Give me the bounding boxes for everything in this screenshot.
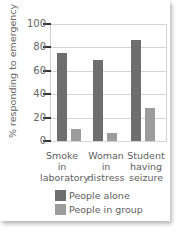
- plot-right-border: [166, 24, 167, 141]
- legend-swatch-alone: [55, 190, 66, 201]
- tick-label: 0: [22, 136, 46, 146]
- gridline-40: [51, 94, 167, 95]
- legend-swatch-group: [55, 204, 66, 215]
- x-label-line: Student: [124, 150, 168, 161]
- x-label-line: in: [40, 161, 84, 172]
- legend-label: People alone: [69, 190, 130, 201]
- x-label-line: laboratory: [40, 172, 84, 183]
- legend-item-group: People in group: [55, 203, 143, 215]
- gridline-0: [51, 141, 167, 142]
- tick-label: 20: [22, 113, 46, 123]
- tick-label: 80: [22, 42, 46, 52]
- bar-alone-2: [131, 40, 141, 141]
- x-label-line: Woman: [84, 150, 128, 161]
- bar-group-2: [145, 108, 155, 141]
- x-label-line: having: [124, 161, 168, 172]
- x-label-line: Smoke: [40, 150, 84, 161]
- gridline-80: [51, 47, 167, 48]
- x-label-student: Student having seizure: [124, 150, 168, 183]
- legend: People alone People in group: [55, 189, 143, 217]
- y-axis-label: % responding to emergency: [7, 18, 19, 138]
- plot-area: 100 80 60 40 20 0: [50, 24, 167, 141]
- legend-label: People in group: [69, 204, 143, 215]
- x-label-line: seizure: [124, 172, 168, 183]
- x-label-woman: Woman in distress: [84, 150, 128, 183]
- legend-item-alone: People alone: [55, 189, 143, 201]
- bar-alone-1: [93, 60, 103, 141]
- bar-group-1: [107, 133, 117, 141]
- x-label-line: distress: [84, 172, 128, 183]
- bar-group-0: [71, 129, 81, 141]
- x-label-line: in: [84, 161, 128, 172]
- tick-label: 100: [22, 19, 46, 29]
- tick-label: 60: [22, 66, 46, 76]
- gridline-100: [51, 24, 167, 25]
- tick-label: 40: [22, 89, 46, 99]
- bar-alone-0: [57, 53, 67, 141]
- gridline-60: [51, 71, 167, 72]
- chart-card: % responding to emergency 100 80 60 40 2…: [0, 0, 170, 221]
- x-label-smoke: Smoke in laboratory: [40, 150, 84, 183]
